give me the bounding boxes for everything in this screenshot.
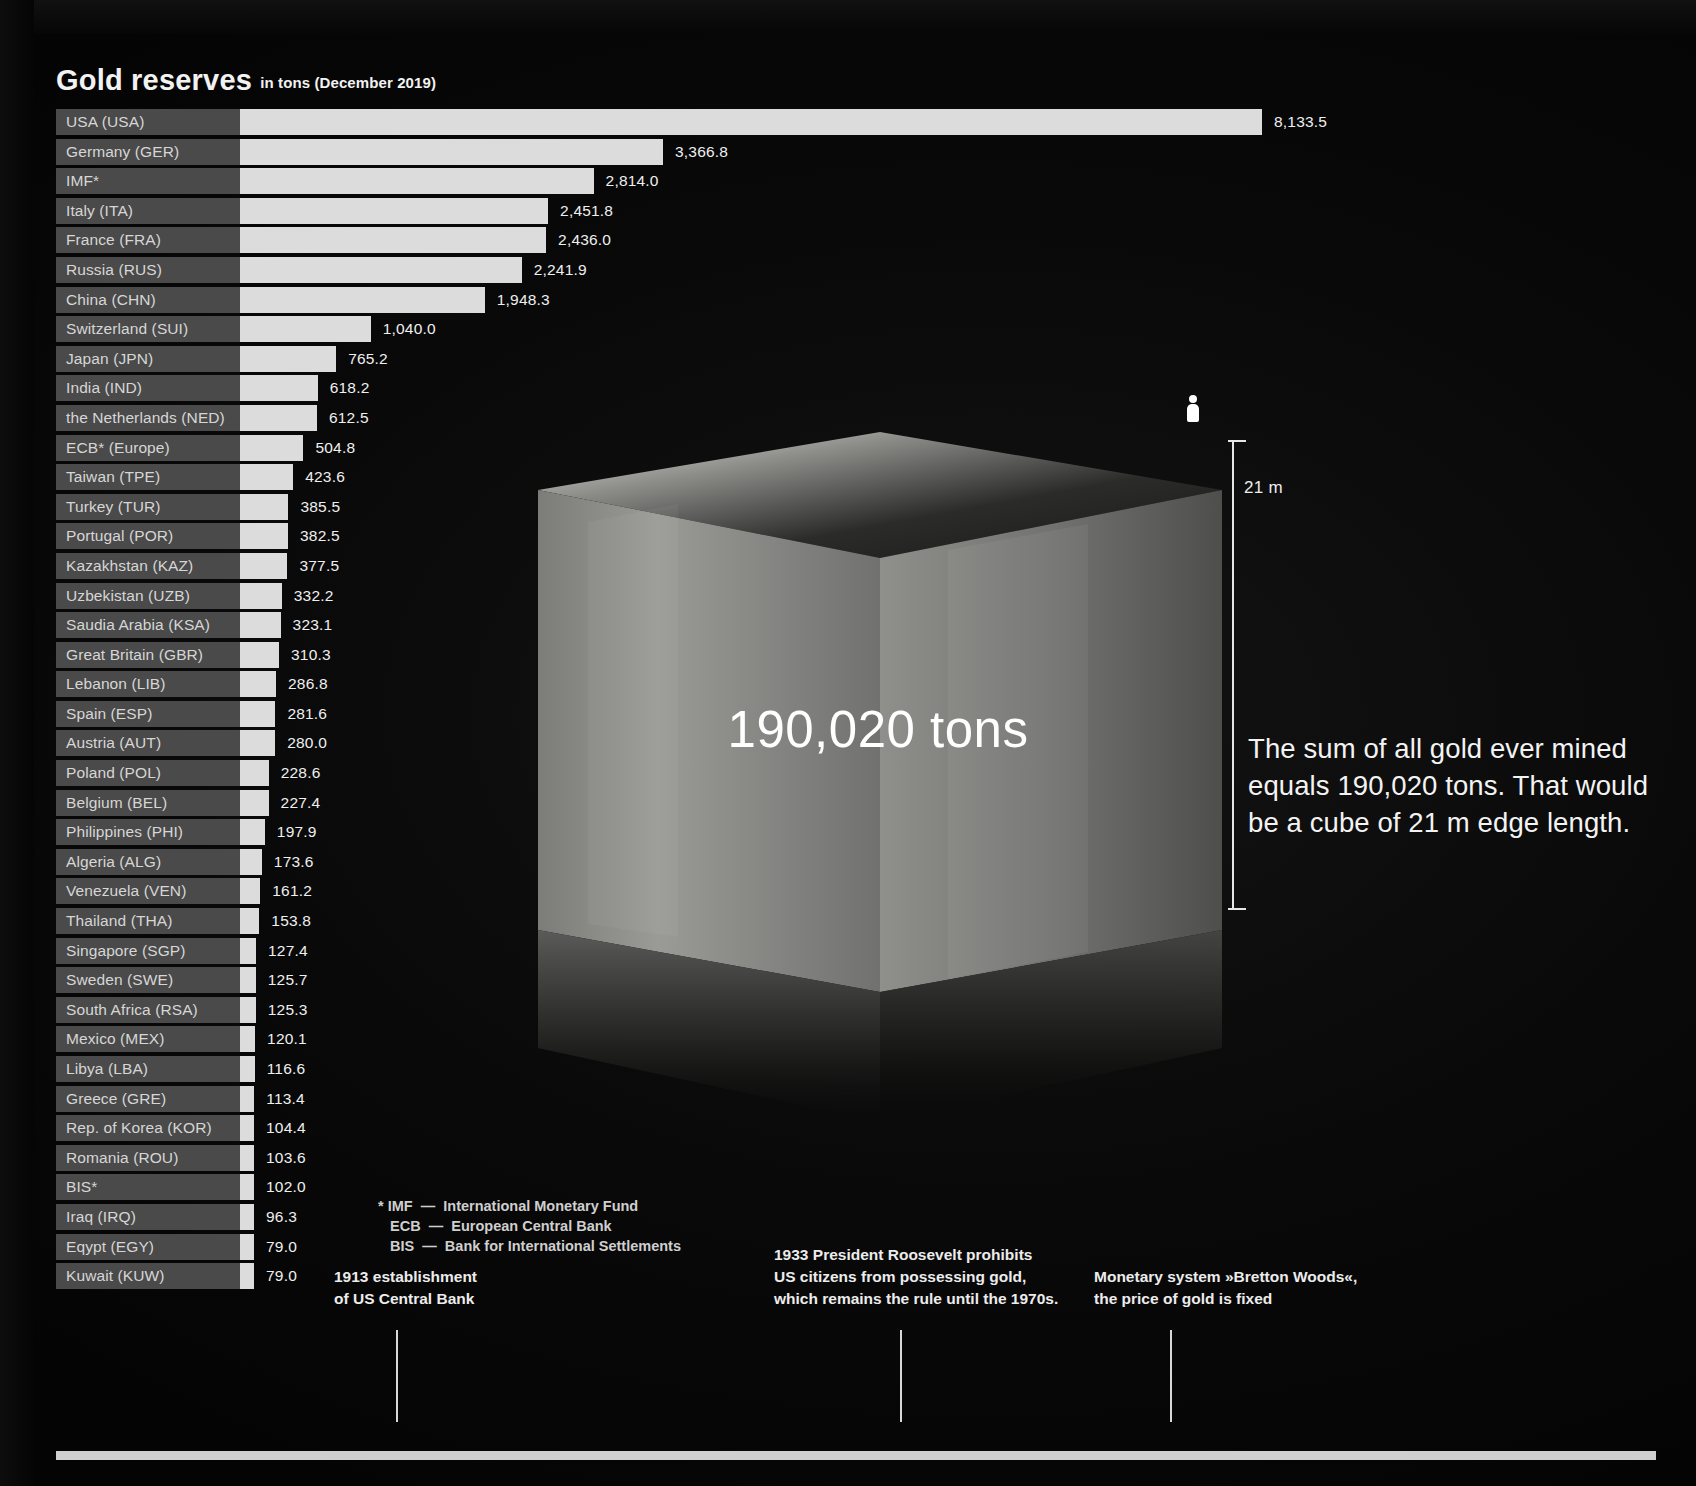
bar-value-label: 125.7: [268, 971, 308, 989]
bar-value-label: 612.5: [329, 409, 369, 427]
bar: [240, 494, 288, 520]
bar-category-label: Russia (RUS): [56, 257, 240, 283]
bar: [240, 1145, 254, 1171]
bar-category-label: Venezuela (VEN): [56, 878, 240, 904]
cube-svg: [528, 432, 1228, 1132]
person-body: [1187, 404, 1199, 422]
bar-category-label: Eqypt (EGY): [56, 1234, 240, 1260]
bar-category-label: Greece (GRE): [56, 1086, 240, 1112]
bar-track: 1,040.0: [240, 316, 1346, 342]
bar-track: 3,366.8: [240, 139, 1346, 165]
bar-value-label: 79.0: [266, 1238, 297, 1256]
bar-value-label: 2,241.9: [534, 261, 587, 279]
bar-value-label: 102.0: [266, 1178, 306, 1196]
bar-category-label: Libya (LBA): [56, 1056, 240, 1082]
bar-category-label: South Africa (RSA): [56, 997, 240, 1023]
bar-category-label: BIS*: [56, 1174, 240, 1200]
table-row: USA (USA)8,133.5: [56, 109, 1346, 135]
cube-amount-label: 190,020 tons: [528, 700, 1228, 759]
bar-category-label: Iraq (IRQ): [56, 1204, 240, 1230]
timeline-baseline: [56, 1451, 1656, 1460]
bar-category-label: the Netherlands (NED): [56, 405, 240, 431]
bar: [240, 1174, 254, 1200]
bar-value-label: 227.4: [281, 794, 321, 812]
bar: [240, 819, 265, 845]
bar-category-label: Great Britain (GBR): [56, 642, 240, 668]
bar-value-label: 377.5: [299, 557, 339, 575]
bar: [240, 1204, 254, 1230]
bar-value-label: 280.0: [287, 734, 327, 752]
bar-category-label: IMF*: [56, 168, 240, 194]
bar: [240, 464, 293, 490]
bar-category-label: Thailand (THA): [56, 908, 240, 934]
timeline-event-1913: 1913 establishment of US Central Bank: [334, 1266, 477, 1310]
bar-value-label: 161.2: [272, 882, 312, 900]
table-row: Germany (GER)3,366.8: [56, 139, 1346, 165]
bar: [240, 938, 256, 964]
table-row: Italy (ITA)2,451.8: [56, 198, 1346, 224]
bar-value-label: 1,948.3: [497, 291, 550, 309]
bar: [240, 730, 275, 756]
bar: [240, 287, 485, 313]
bar: [240, 878, 260, 904]
bar-value-label: 125.3: [268, 1001, 308, 1019]
bar-value-label: 765.2: [348, 350, 388, 368]
bar-value-label: 385.5: [300, 498, 340, 516]
bar-value-label: 504.8: [315, 439, 355, 457]
infographic-page: Gold reserves in tons (December 2019) US…: [0, 0, 1696, 1486]
bar-value-label: 113.4: [266, 1090, 305, 1108]
timeline-event-1933: 1933 President Roosevelt prohibits US ci…: [774, 1244, 1058, 1310]
table-row: BIS*102.0: [56, 1174, 1346, 1200]
timeline-stem-1913: [396, 1330, 398, 1422]
bar-value-label: 197.9: [277, 823, 317, 841]
bar-category-label: Italy (ITA): [56, 198, 240, 224]
bar-value-label: 116.6: [267, 1060, 306, 1078]
bar: [240, 1115, 254, 1141]
bar-value-label: 3,366.8: [675, 143, 728, 161]
bar-category-label: Belgium (BEL): [56, 790, 240, 816]
bar: [240, 612, 281, 638]
bar: [240, 375, 318, 401]
bar-category-label: Saudia Arabia (KSA): [56, 612, 240, 638]
bar-category-label: Uzbekistan (UZB): [56, 583, 240, 609]
bar: [240, 227, 546, 253]
bar-category-label: Germany (GER): [56, 139, 240, 165]
bar: [240, 523, 288, 549]
bar-value-label: 1,040.0: [383, 320, 436, 338]
bar-value-label: 96.3: [266, 1208, 297, 1226]
bar-value-label: 228.6: [281, 764, 321, 782]
bar: [240, 198, 548, 224]
bar: [240, 642, 279, 668]
bar-category-label: Spain (ESP): [56, 701, 240, 727]
bar: [240, 671, 276, 697]
bar-value-label: 79.0: [266, 1267, 297, 1285]
dimension-tick-bottom: [1228, 908, 1246, 910]
abbreviation-footnote: * IMF — International Monetary Fund ECB …: [378, 1196, 681, 1256]
dimension-line: [1232, 440, 1234, 910]
bar-category-label: Sweden (SWE): [56, 967, 240, 993]
bar-track: 765.2: [240, 346, 1346, 372]
bar-category-label: ECB* (Europe): [56, 435, 240, 461]
bar-track: 2,814.0: [240, 168, 1346, 194]
person-head: [1189, 395, 1197, 403]
bar: [240, 405, 317, 431]
bar-value-label: 173.6: [274, 853, 314, 871]
table-row: Iraq (IRQ)96.3: [56, 1204, 1346, 1230]
chart-subtitle: in tons (December 2019): [260, 74, 436, 91]
bar-value-label: 104.4: [266, 1119, 306, 1137]
table-row: Japan (JPN)765.2: [56, 346, 1346, 372]
bar-category-label: Turkey (TUR): [56, 494, 240, 520]
bar-category-label: France (FRA): [56, 227, 240, 253]
bar-category-label: Rep. of Korea (KOR): [56, 1115, 240, 1141]
timeline-event-bretton-woods: Monetary system »Bretton Woods«, the pri…: [1094, 1266, 1357, 1310]
bar-value-label: 2,814.0: [606, 172, 659, 190]
bar: [240, 1234, 254, 1260]
bar: [240, 849, 262, 875]
bar-category-label: Taiwan (TPE): [56, 464, 240, 490]
bar-track: 1,948.3: [240, 287, 1346, 313]
bar-category-label: Singapore (SGP): [56, 938, 240, 964]
bar: [240, 1263, 254, 1289]
timeline-stem-bretton-woods: [1170, 1330, 1172, 1422]
left-edge-band: [0, 0, 34, 1486]
bar-value-label: 103.6: [266, 1149, 306, 1167]
